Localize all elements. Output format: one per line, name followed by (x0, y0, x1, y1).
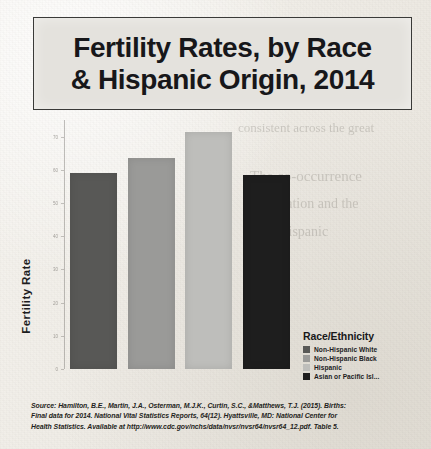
source-line-3: Health Statistics. Available at http://w… (31, 422, 427, 432)
legend-swatch-icon (303, 364, 310, 371)
y-axis-tick-label: 30 (44, 267, 58, 272)
legend-swatch-icon (303, 355, 310, 362)
legend-item-label: Hispanic (314, 364, 342, 371)
legend-item-label: Non-Hispanic White (314, 346, 377, 353)
plot-area: Non-HispanicWhiteNon-HispanicBlackHispan… (65, 120, 295, 369)
legend-item[interactable]: Asian or Pacific Isl... (303, 373, 428, 380)
page-title-line-1: Fertility Rates, by Race (73, 32, 372, 63)
legend-item[interactable]: Non-Hispanic White (303, 346, 428, 353)
legend-item[interactable]: Hispanic (303, 364, 428, 371)
bar[interactable] (128, 158, 175, 369)
y-axis-tick-label: 20 (44, 300, 58, 305)
legend: Race/Ethnicity Non-Hispanic WhiteNon-His… (303, 330, 428, 382)
y-axis-tick-label: 60 (44, 167, 58, 172)
y-axis-tick-label: 70 (44, 134, 58, 139)
legend-swatch-icon (303, 346, 310, 353)
bar[interactable] (70, 173, 117, 369)
page-title-line-2: & Hispanic Origin, 2014 (71, 64, 375, 95)
y-axis-tick-mark (61, 170, 64, 171)
source-line-2: Final data for 2014. National Vital Stat… (31, 411, 427, 421)
legend-swatch-icon (303, 373, 310, 380)
y-axis-tick-mark (61, 269, 64, 270)
legend-items: Non-Hispanic WhiteNon-Hispanic BlackHisp… (303, 346, 428, 380)
y-axis-tick-mark (61, 369, 64, 370)
source-citation: Source: Hamilton, B.E., Martin, J.A., Os… (31, 401, 427, 432)
y-axis-tick-mark (61, 236, 64, 237)
scanned-page: consistent across the great The co-occur… (0, 0, 431, 449)
bar[interactable] (185, 132, 232, 369)
legend-item-label: Non-Hispanic Black (314, 355, 377, 362)
y-axis-tick-label: 0 (44, 367, 58, 372)
y-axis-label: Fertility Rate (20, 221, 32, 371)
y-axis-tick-mark (61, 303, 64, 304)
chart-title-box: Fertility Rates, by Race & Hispanic Orig… (33, 17, 412, 110)
y-axis-tick-label: 50 (44, 201, 58, 206)
bar[interactable] (243, 175, 290, 369)
y-axis-tick-label: 10 (44, 333, 58, 338)
legend-item[interactable]: Non-Hispanic Black (303, 355, 428, 362)
legend-title: Race/Ethnicity (303, 330, 428, 342)
source-line-1: Source: Hamilton, B.E., Martin, J.A., Os… (31, 401, 427, 411)
y-axis-tick-mark (61, 137, 64, 138)
legend-item-label: Asian or Pacific Isl... (314, 373, 379, 380)
y-axis-tick-label: 40 (44, 234, 58, 239)
y-axis-tick-mark (61, 336, 64, 337)
y-axis-tick-mark (61, 203, 64, 204)
